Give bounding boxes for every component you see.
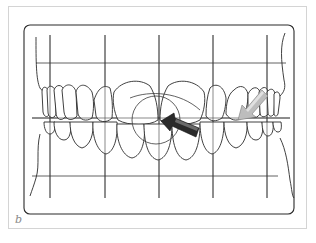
panel-label: b — [15, 213, 22, 226]
dental-grid-figure: b — [0, 0, 316, 243]
dental-diagram — [0, 0, 316, 243]
lower-teeth — [44, 122, 281, 160]
